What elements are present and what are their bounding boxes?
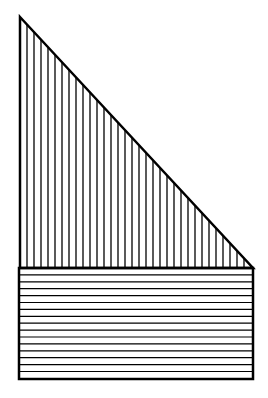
rectangle-horizontal-hatching: [19, 275, 253, 372]
hatched-shape-diagram: [0, 0, 268, 398]
